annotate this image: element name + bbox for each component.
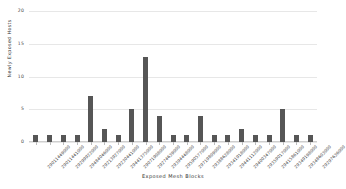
y-axis-tick-label: 20 bbox=[18, 9, 24, 14]
bar bbox=[157, 116, 162, 142]
bar bbox=[88, 96, 93, 142]
bar bbox=[102, 129, 107, 142]
y-axis-tick-label: 5 bbox=[21, 107, 24, 112]
y-axis-tick-label: 0 bbox=[21, 140, 24, 145]
bars-layer bbox=[29, 11, 317, 142]
plot-area bbox=[29, 11, 317, 142]
y-axis-tick-labels: 05101520 bbox=[0, 11, 27, 142]
bar bbox=[129, 109, 134, 142]
x-axis-title: Exposed Mesh Blocks bbox=[29, 174, 317, 179]
bar bbox=[239, 129, 244, 142]
bar bbox=[198, 116, 203, 142]
y-axis-tick-label: 10 bbox=[18, 74, 24, 79]
y-axis-tick-label: 15 bbox=[18, 41, 24, 46]
bar bbox=[280, 109, 285, 142]
bar bbox=[143, 57, 148, 142]
x-axis-tick-labels: 2901144900029011441000292999220002948404… bbox=[29, 145, 317, 173]
